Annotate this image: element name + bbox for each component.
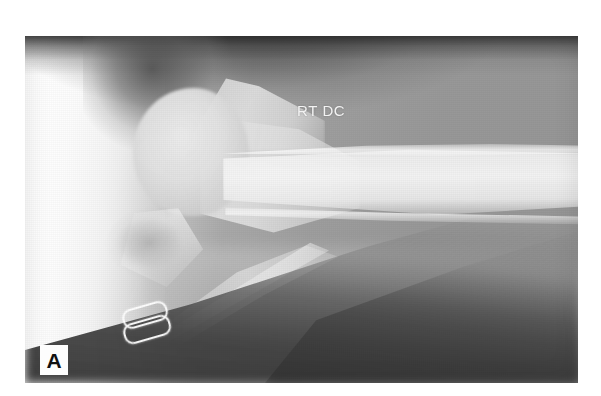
radiograph-image: RT DC A xyxy=(25,36,578,383)
view-orientation-label: RT DC xyxy=(297,102,345,119)
panel-letter-label: A xyxy=(40,345,68,375)
radiograph-figure: RT DC A xyxy=(0,0,601,396)
plate-vignette xyxy=(25,36,578,383)
